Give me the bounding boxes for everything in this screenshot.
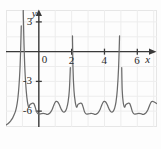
origin-label: 0 (42, 54, 48, 65)
y-axis-label: y (32, 8, 37, 19)
x-tick-label-4: 4 (101, 55, 107, 66)
y-tick-label-neg3: -3 (23, 75, 32, 86)
x-tick-label-2: 2 (69, 55, 75, 66)
graph-figure: 3 -3 -6 0 2 4 6 x y (0, 0, 161, 149)
x-tick-label-6: 6 (134, 55, 140, 66)
y-tick-label-neg6: -6 (23, 105, 32, 116)
x-axis-label: x (145, 54, 150, 65)
